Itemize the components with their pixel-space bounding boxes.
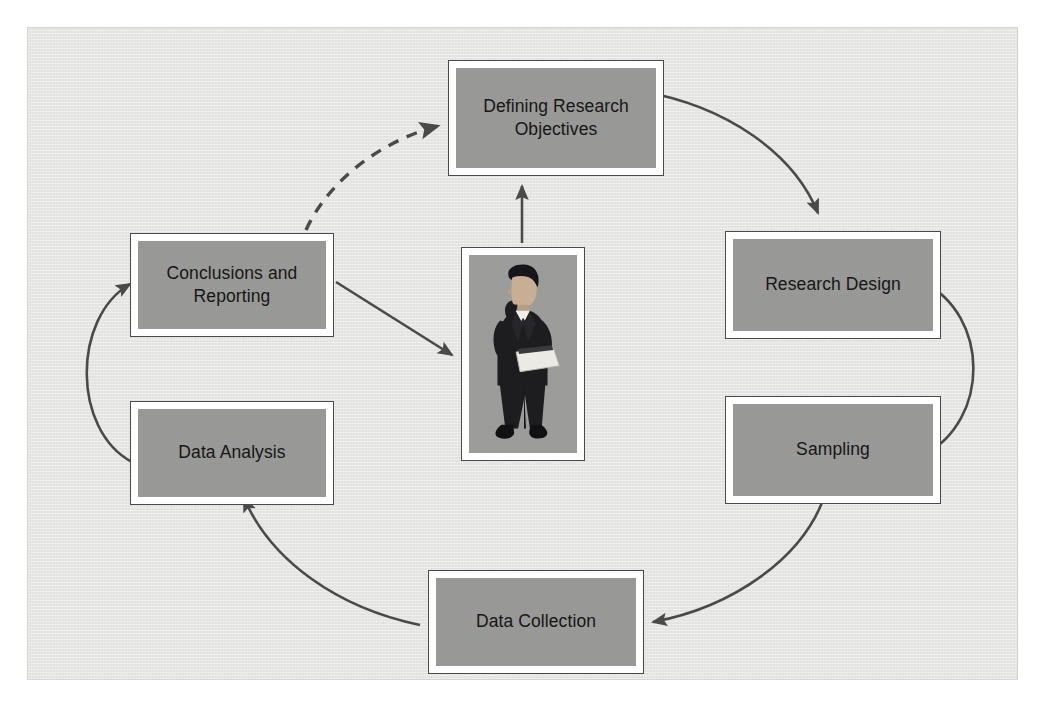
node-label-defining-research-objectives: Defining Research Objectives (483, 95, 629, 141)
node-defining-research-objectives[interactable]: Defining Research Objectives (448, 60, 664, 176)
node-fill: Conclusions and Reporting (138, 241, 326, 329)
node-fill: Research Design (733, 239, 933, 331)
node-sampling[interactable]: Sampling (725, 396, 941, 504)
businessman-photo (469, 255, 577, 453)
node-label-data-collection: Data Collection (476, 610, 596, 633)
arrow-sampling-to-data-collection (653, 485, 828, 622)
node-fill: Sampling (733, 404, 933, 496)
node-fill: Data Analysis (138, 409, 326, 497)
node-data-analysis[interactable]: Data Analysis (130, 401, 334, 505)
businessman-illustration (469, 255, 577, 453)
node-label-data-analysis: Data Analysis (178, 441, 285, 464)
node-fill: Defining Research Objectives (456, 68, 656, 168)
node-label-conclusions-and-reporting: Conclusions and Reporting (167, 262, 298, 308)
arrow-data-collection-to-data-analysis (244, 498, 420, 625)
node-fill: Data Collection (436, 578, 636, 666)
node-data-collection[interactable]: Data Collection (428, 570, 644, 674)
figure-canvas: Defining Research Objectives Research De… (0, 0, 1044, 705)
arrow-data-analysis-to-conclusions (87, 284, 132, 462)
arrow-conclusions-to-researcher (336, 282, 452, 355)
node-conclusions-and-reporting[interactable]: Conclusions and Reporting (130, 233, 334, 337)
node-research-design[interactable]: Research Design (725, 231, 941, 339)
node-label-research-design: Research Design (765, 273, 901, 296)
arrow-objectives-to-design (640, 91, 818, 213)
diagram-background: Defining Research Objectives Research De… (27, 27, 1018, 680)
businessman-photo-frame (461, 247, 585, 461)
node-label-sampling: Sampling (796, 438, 870, 461)
arrow-conclusions-to-objectives-dashed (306, 126, 438, 230)
